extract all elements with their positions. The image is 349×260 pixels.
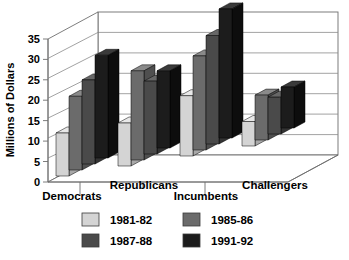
y-tick-10: 10 bbox=[28, 135, 40, 147]
y-tick-15: 15 bbox=[28, 115, 40, 127]
legend-label-1987-88: 1987-88 bbox=[110, 235, 153, 247]
legend-item-1987-88[interactable]: 1987-88 bbox=[82, 234, 153, 247]
legend-item-1981-82[interactable]: 1981-82 bbox=[82, 213, 152, 226]
bar-chart-3d: 35 30 25 20 15 10 5 0 Millions of Dollar… bbox=[0, 0, 349, 260]
y-tick-25: 25 bbox=[28, 74, 40, 86]
y-axis: 35 30 25 20 15 10 5 0 bbox=[28, 33, 48, 188]
x-category-incumbents: Incumbents bbox=[174, 190, 239, 202]
legend-label-1985-86: 1985-86 bbox=[211, 214, 253, 226]
y-axis-title: Millions of Dollars bbox=[4, 63, 16, 158]
legend-swatch-1985-86 bbox=[183, 213, 200, 226]
legend-swatch-1981-82 bbox=[82, 213, 99, 226]
legend-swatch-1991-92 bbox=[183, 234, 200, 247]
legend-item-1985-86[interactable]: 1985-86 bbox=[183, 213, 253, 226]
y-tick-20: 20 bbox=[28, 94, 40, 106]
bar-republicans-1991-92 bbox=[157, 65, 181, 148]
legend-item-1991-92[interactable]: 1991-92 bbox=[183, 234, 253, 247]
bar-incumbents-1991-92 bbox=[219, 3, 243, 138]
x-category-democrats: Democrats bbox=[42, 190, 101, 202]
bar-challengers-1991-92 bbox=[281, 81, 305, 128]
bar-democrats-1991-92 bbox=[95, 49, 119, 158]
legend: 1981-82 1987-88 1985-86 1991-92 bbox=[82, 213, 253, 247]
x-category-republicans: Republicans bbox=[110, 179, 178, 191]
y-tick-35: 35 bbox=[28, 33, 40, 45]
legend-label-1981-82: 1981-82 bbox=[110, 214, 152, 226]
x-category-challengers: Challengers bbox=[242, 179, 308, 191]
chart-container: 35 30 25 20 15 10 5 0 Millions of Dollar… bbox=[0, 0, 349, 260]
legend-swatch-1987-88 bbox=[82, 234, 99, 247]
legend-label-1991-92: 1991-92 bbox=[211, 235, 253, 247]
y-tick-30: 30 bbox=[28, 53, 40, 65]
y-tick-0: 0 bbox=[34, 176, 40, 188]
y-tick-5: 5 bbox=[34, 156, 40, 168]
